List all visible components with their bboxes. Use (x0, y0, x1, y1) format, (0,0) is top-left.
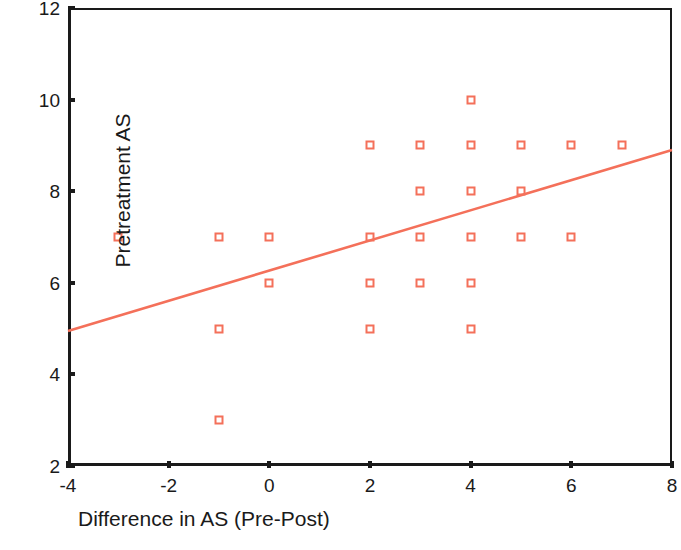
x-tick-mark (267, 461, 271, 468)
y-tick-mark (68, 372, 75, 376)
y-tick-label: 10 (14, 90, 60, 109)
y-tick-mark (68, 6, 75, 10)
x-tick-label: 0 (239, 476, 299, 495)
x-tick-label: -2 (139, 476, 199, 495)
x-tick-label: -4 (38, 476, 98, 495)
x-tick-mark (469, 461, 473, 468)
plot-frame (68, 8, 672, 466)
y-tick-label: 12 (14, 0, 60, 18)
x-axis-title: Difference in AS (Pre-Post) (78, 508, 330, 529)
x-tick-mark (670, 461, 674, 468)
y-tick-label: 4 (14, 365, 60, 384)
y-tick-label: 8 (14, 182, 60, 201)
x-tick-mark (569, 461, 573, 468)
x-tick-label: 8 (642, 476, 681, 495)
x-tick-label: 6 (541, 476, 601, 495)
y-tick-mark (68, 189, 75, 193)
scatter-plot-figure: 24681012 -4-202468 Pretreatment AS Diffe… (0, 0, 681, 550)
x-tick-mark (66, 461, 70, 468)
y-tick-mark (68, 98, 75, 102)
y-tick-mark (68, 281, 75, 285)
y-axis-title: Pretreatment AS (112, 61, 133, 321)
y-tick-label: 6 (14, 273, 60, 292)
x-tick-label: 2 (340, 476, 400, 495)
x-tick-label: 4 (441, 476, 501, 495)
x-tick-mark (167, 461, 171, 468)
y-tick-label: 2 (14, 457, 60, 476)
x-tick-mark (368, 461, 372, 468)
